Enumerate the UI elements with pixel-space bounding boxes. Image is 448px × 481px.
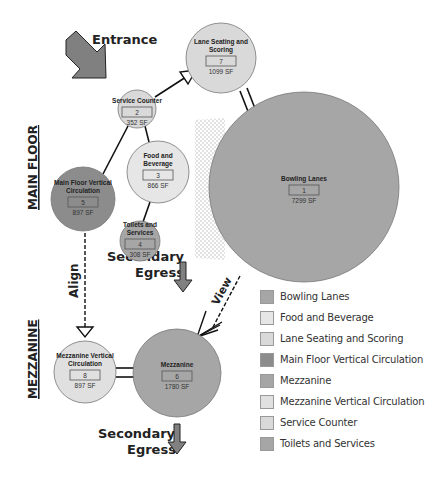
space-area: 352 SF (127, 119, 148, 126)
legend-item: Mezzanine Vertical Circulation (260, 391, 424, 412)
space-title: Mezzanine (161, 361, 194, 368)
space-title: Main Floor Vertical (54, 179, 112, 186)
space-id: 4 (138, 241, 142, 248)
legend-item: Toilets and Services (260, 433, 424, 454)
legend: Bowling LanesFood and BeverageLane Seati… (260, 286, 424, 454)
space-title: Lane Seating and (194, 38, 248, 46)
space-title: Circulation (68, 360, 102, 367)
legend-label: Lane Seating and Scoring (280, 333, 403, 344)
main-floor-label: MAIN FLOOR (26, 125, 40, 210)
legend-label: Bowling Lanes (280, 291, 349, 302)
space-node: Main Floor VerticalCirculation5897 SF (51, 167, 115, 231)
space-area: 897 SF (73, 209, 94, 216)
space-title: Food and (143, 152, 172, 159)
space-node: Bowling Lanes17299 SF (209, 92, 399, 282)
legend-swatch (260, 437, 274, 451)
legend-swatch (260, 332, 274, 346)
entrance-label: Entrance (92, 32, 157, 47)
legend-swatch (260, 353, 274, 367)
space-title: Circulation (66, 187, 100, 194)
legend-swatch (260, 311, 274, 325)
legend-label: Main Floor Vertical Circulation (280, 354, 423, 365)
space-area: 897 SF (75, 382, 96, 389)
space-area: 1099 SF (209, 68, 234, 75)
space-title: Toilets and (123, 221, 157, 228)
space-title: Service Counter (112, 97, 162, 104)
space-node: Lane Seating andScoring71099 SF (186, 23, 256, 93)
legend-item: Mezzanine (260, 370, 424, 391)
space-id: 1 (302, 187, 306, 194)
legend-label: Mezzanine Vertical Circulation (280, 396, 424, 407)
align-label: Align (67, 263, 81, 298)
legend-swatch (260, 416, 274, 430)
space-area: 7299 SF (292, 197, 317, 204)
secondary-egress-2-line1: Secondary (98, 426, 176, 441)
space-title: Scoring (209, 46, 233, 54)
legend-swatch (260, 290, 274, 304)
legend-label: Food and Beverage (280, 312, 374, 323)
space-area: 308 SF (130, 251, 151, 258)
legend-item: Food and Beverage (260, 307, 424, 328)
space-id: 2 (135, 109, 139, 116)
space-id: 6 (175, 373, 179, 380)
legend-swatch (260, 374, 274, 388)
space-node: Food andBeverage3866 SF (127, 141, 189, 203)
secondary-egress-2-line2: Egress (127, 442, 176, 457)
space-id: 5 (81, 199, 85, 206)
space-node: Service Counter2352 SF (112, 90, 162, 128)
space-id: 8 (83, 372, 87, 379)
space-area: 866 SF (148, 182, 169, 189)
legend-item: Main Floor Vertical Circulation (260, 349, 424, 370)
legend-swatch (260, 395, 274, 409)
space-id: 7 (219, 58, 223, 65)
secondary-egress-1-line2: Egress (135, 265, 184, 280)
legend-item: Lane Seating and Scoring (260, 328, 424, 349)
space-node: Mezzanine61780 SF (133, 329, 221, 417)
space-title: Bowling Lanes (281, 175, 327, 183)
space-area: 1780 SF (165, 383, 190, 390)
legend-item: Bowling Lanes (260, 286, 424, 307)
space-id: 3 (156, 172, 160, 179)
space-title: Beverage (143, 160, 173, 168)
space-node: Mezzanine VerticalCirculation8897 SF (54, 341, 116, 403)
space-node: Toilets andServices4308 SF (120, 221, 160, 261)
legend-item: Service Counter (260, 412, 424, 433)
legend-label: Toilets and Services (280, 438, 375, 449)
legend-label: Mezzanine (280, 375, 331, 386)
space-title: Mezzanine Vertical (56, 352, 114, 359)
legend-label: Service Counter (280, 417, 357, 428)
view-label: View (209, 275, 234, 307)
mezzanine-floor-label: MEZZANINE (26, 319, 40, 399)
space-title: Services (127, 229, 154, 236)
